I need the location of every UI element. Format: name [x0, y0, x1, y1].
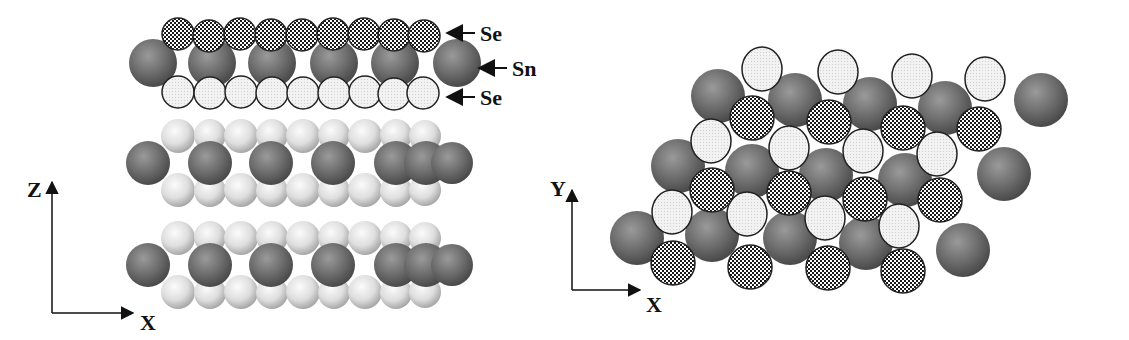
top-view [610, 47, 1068, 293]
label-sn: Sn [479, 56, 536, 81]
svg-text:Se: Se [480, 21, 502, 46]
side-view-layer-3 [126, 221, 473, 309]
side-view-layer-2 [126, 119, 473, 207]
svg-text:Sn: Sn [512, 56, 536, 81]
axis-label-x-side: X [140, 310, 156, 335]
se-top-atom-row [162, 18, 440, 52]
axis-label-z: Z [27, 177, 42, 202]
side-view-labeled-layer: Se Sn Se [129, 18, 536, 110]
label-se-bottom: Se [447, 85, 502, 110]
se-bottom-atom-row [162, 76, 439, 110]
svg-text:Se: Se [480, 85, 502, 110]
snse2-structure-figure: Se Sn Se [0, 0, 1129, 340]
axis-label-y: Y [550, 176, 566, 201]
axis-label-x-top: X [646, 292, 662, 317]
